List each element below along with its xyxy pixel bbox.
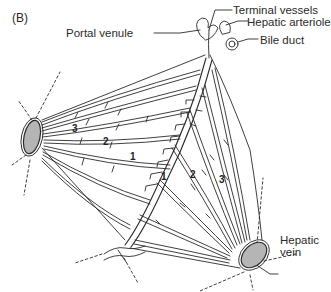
label-hepatic-vein-line1: Hepatic bbox=[280, 234, 319, 246]
bile-duct-lumen bbox=[229, 41, 235, 47]
label-bile-duct: Bile duct bbox=[260, 34, 304, 46]
leader-portal-venule bbox=[154, 30, 200, 33]
zone-number-right-3: 3 bbox=[219, 174, 225, 185]
outer-edge-bottom-right bbox=[130, 248, 240, 268]
outer-edge-top-right bbox=[210, 55, 262, 240]
label-portal-venule: Portal venule bbox=[66, 27, 133, 39]
zone-number-right-1: 1 bbox=[161, 171, 167, 182]
zone-number-left-1: 1 bbox=[130, 151, 136, 162]
left-central-vein bbox=[21, 119, 44, 156]
label-hepatic-arteriole: Hepatic arteriole bbox=[247, 16, 331, 28]
left-sinusoids bbox=[42, 70, 200, 229]
zone-number-right-2: 2 bbox=[190, 169, 196, 180]
label-hepatic-vein-line2: vein bbox=[280, 246, 301, 258]
label-terminal-vessels: Terminal vessels bbox=[233, 4, 318, 16]
bottom-portal-branch bbox=[104, 246, 145, 262]
bile-duct-shape bbox=[226, 38, 238, 50]
portal-venule-shape bbox=[196, 18, 218, 40]
zone-number-left-3: 3 bbox=[72, 123, 78, 134]
leader-bile-duct bbox=[238, 39, 258, 42]
leader-terminal-vessels bbox=[209, 10, 232, 30]
hepatic-arteriole-shape bbox=[219, 21, 230, 34]
zone-number-left-2: 2 bbox=[103, 136, 109, 147]
